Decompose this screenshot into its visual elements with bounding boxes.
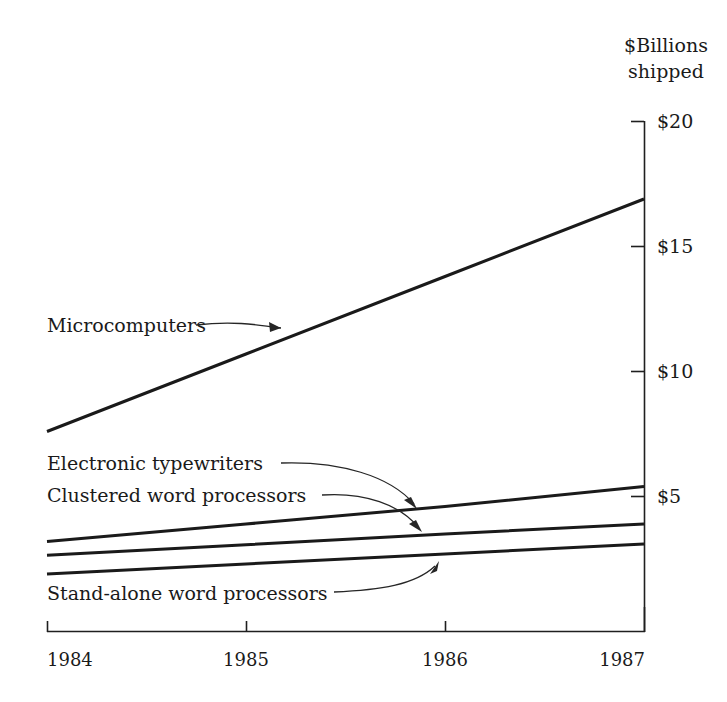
series-label-stand-alone-word-processors: Stand-alone word processors	[47, 582, 328, 604]
leader-arrowhead-clustered-word-processors	[409, 520, 422, 532]
series-label-microcomputers: Microcomputers	[47, 314, 206, 336]
y-tick-label-15: $15	[657, 235, 693, 257]
leader-line-stand-alone-word-processors	[334, 566, 435, 592]
x-tick-label-1984: 1984	[47, 649, 93, 670]
series-label-clustered-word-processors: Clustered word processors	[47, 484, 306, 506]
y-tick-label-10: $10	[657, 360, 693, 382]
y-tick-label-5: $5	[657, 485, 681, 507]
chart-title-line-2: shipped	[628, 60, 704, 82]
x-tick-label-1985: 1985	[223, 649, 269, 670]
leader-line-microcomputers	[196, 323, 281, 328]
series-line-stand-alone-word-processors	[47, 544, 644, 574]
leader-arrowhead-electronic-typewriters	[404, 497, 417, 509]
series-label-electronic-typewriters: Electronic typewriters	[47, 452, 263, 474]
chart-canvas: $Billions shipped $20 $15 $10 $5 1984 19…	[0, 0, 727, 702]
x-tick-label-1986: 1986	[422, 649, 468, 670]
chart-title-line-1: $Billions	[624, 34, 708, 56]
y-tick-label-20: $20	[657, 110, 693, 132]
series-line-clustered-word-processors	[47, 524, 644, 555]
x-tick-label-1987: 1987	[599, 649, 645, 670]
leader-arrowhead-microcomputers	[269, 322, 281, 332]
line-chart: $Billions shipped $20 $15 $10 $5 1984 19…	[0, 0, 727, 702]
leader-arrowhead-stand-alone-word-processors	[430, 561, 439, 574]
